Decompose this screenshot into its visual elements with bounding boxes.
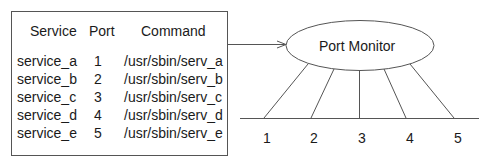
row-command: /usr/sbin/serv_e: [124, 125, 223, 141]
header-port: Port: [89, 23, 115, 39]
row-service: service_b: [17, 71, 77, 87]
port-monitor-label: Port Monitor: [319, 38, 395, 54]
port-label-3: 3: [354, 130, 370, 146]
row-service: service_a: [17, 53, 77, 69]
row-command: /usr/sbin/serv_b: [124, 71, 223, 87]
row-port: 1: [91, 53, 105, 69]
row-port: 3: [91, 89, 105, 105]
row-command: /usr/sbin/serv_a: [124, 53, 223, 69]
header-service: Service: [30, 23, 77, 39]
row-service: service_c: [17, 89, 76, 105]
spoke-port-2: [311, 69, 334, 118]
spoke-port-1: [264, 64, 308, 118]
row-service: service_e: [17, 125, 77, 141]
row-port: 5: [91, 125, 105, 141]
port-label-2: 2: [306, 130, 322, 146]
row-command: /usr/sbin/serv_c: [124, 89, 222, 105]
row-port: 4: [91, 107, 105, 123]
port-label-5: 5: [450, 130, 466, 146]
port-label-4: 4: [402, 130, 418, 146]
row-service: service_d: [17, 107, 77, 123]
row-command: /usr/sbin/serv_d: [124, 107, 223, 123]
row-port: 2: [91, 71, 105, 87]
header-command: Command: [141, 23, 206, 39]
spoke-port-5: [410, 64, 454, 118]
spoke-port-4: [384, 69, 406, 118]
port-label-1: 1: [259, 130, 275, 146]
